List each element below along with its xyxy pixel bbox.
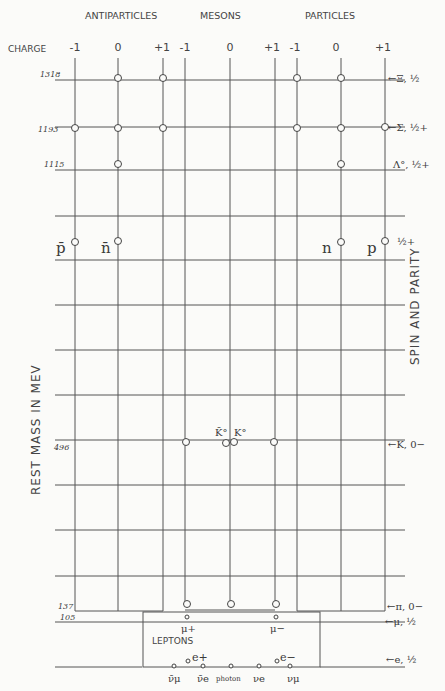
svg-text:e+: e+ xyxy=(192,651,208,664)
svg-text:0: 0 xyxy=(333,41,340,54)
header-mesons: MESONS xyxy=(200,10,241,21)
particle-labels: p̄ n̄ n p K̄° K° μ+ μ− e+ e− ν̄μ ν̄e pho… xyxy=(56,239,377,684)
svg-text:1318: 1318 xyxy=(40,70,60,79)
svg-text:+1: +1 xyxy=(154,41,170,54)
svg-text:e−: e− xyxy=(280,651,296,664)
svg-text:p: p xyxy=(367,239,377,257)
svg-text:+1: +1 xyxy=(264,41,280,54)
svg-text:-1: -1 xyxy=(290,41,301,54)
svg-text:νe: νe xyxy=(253,673,265,684)
charge-ticks: -1 0 +1 -1 0 +1 -1 0 +1 xyxy=(70,41,392,54)
grid-lines xyxy=(55,58,405,667)
header-particles: PARTICLES xyxy=(305,10,355,21)
svg-text:½+: ½+ xyxy=(397,236,415,247)
right-axis-label: SPIN AND PARITY xyxy=(408,247,422,365)
svg-text:μ+: μ+ xyxy=(181,623,196,634)
svg-text:0: 0 xyxy=(115,41,122,54)
svg-text:1193: 1193 xyxy=(38,125,58,134)
svg-text:0: 0 xyxy=(227,41,234,54)
svg-text:n: n xyxy=(322,239,332,257)
charge-label: CHARGE xyxy=(8,44,46,54)
svg-text:←Σ, ½+: ←Σ, ½+ xyxy=(388,122,428,133)
mass-ticks: 1318 1193 1115 496 137 105 xyxy=(38,70,75,622)
svg-text:137: 137 xyxy=(58,602,74,611)
svg-text:←μ, ½: ←μ, ½ xyxy=(385,616,416,627)
svg-text:←e, ½: ←e, ½ xyxy=(386,654,417,665)
svg-text:105: 105 xyxy=(60,613,75,622)
svg-text:+1: +1 xyxy=(375,41,391,54)
svg-text:ν̄e: ν̄e xyxy=(197,673,209,684)
svg-text:νμ: νμ xyxy=(287,673,300,684)
svg-text:-1: -1 xyxy=(70,41,81,54)
svg-text:μ−: μ− xyxy=(270,623,285,634)
svg-text:Λ°, ½+: Λ°, ½+ xyxy=(392,159,430,170)
svg-text:photon: photon xyxy=(216,675,241,683)
svg-text:1115: 1115 xyxy=(44,160,64,169)
svg-text:←K, 0−: ←K, 0− xyxy=(388,439,425,450)
svg-text:K°: K° xyxy=(234,427,246,438)
svg-text:-1: -1 xyxy=(180,41,191,54)
svg-text:K̄°: K̄° xyxy=(215,427,227,438)
svg-text:n̄: n̄ xyxy=(101,239,111,257)
particle-chart: ANTIPARTICLES MESONS PARTICLES CHARGE -1… xyxy=(0,0,445,691)
svg-text:←Ξ, ½: ←Ξ, ½ xyxy=(388,73,420,84)
svg-text:p̄: p̄ xyxy=(56,239,66,257)
svg-text:ν̄μ: ν̄μ xyxy=(168,673,181,684)
svg-text:←π, 0−: ←π, 0− xyxy=(387,601,423,612)
header-antiparticles: ANTIPARTICLES xyxy=(85,10,157,21)
y-axis-label: REST MASS IN MEV xyxy=(29,364,43,495)
svg-text:496: 496 xyxy=(53,443,69,452)
leptons-label: LEPTONS xyxy=(152,636,193,646)
